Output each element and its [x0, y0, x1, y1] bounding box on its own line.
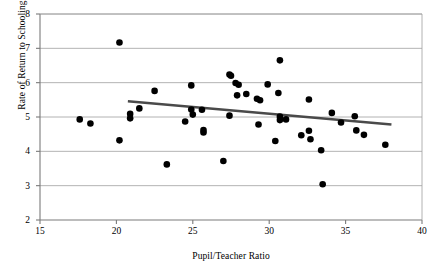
data-point [255, 121, 262, 128]
plot-area [0, 0, 437, 274]
data-point [264, 81, 271, 88]
data-point [220, 158, 227, 165]
data-point [226, 112, 233, 119]
data-point [329, 110, 336, 117]
data-point [243, 91, 250, 98]
data-point [298, 132, 305, 139]
data-point [319, 181, 326, 188]
data-point [228, 73, 235, 80]
data-point [136, 105, 143, 112]
trendline-segment [128, 101, 392, 124]
data-point [272, 138, 279, 145]
data-point [307, 136, 314, 143]
scatter-chart: Rate of Return to Schooling Pupil/Teache… [0, 0, 437, 274]
data-point [116, 137, 123, 144]
data-point [338, 119, 345, 126]
data-point [353, 127, 360, 134]
data-point [234, 92, 241, 99]
data-point [277, 117, 284, 124]
data-point [182, 118, 189, 125]
data-point [76, 116, 83, 123]
data-point [199, 106, 206, 113]
data-point [382, 142, 389, 149]
data-point [351, 113, 358, 120]
data-point [306, 127, 313, 134]
data-point [164, 161, 171, 168]
data-point [127, 115, 134, 122]
axis-ticks [36, 14, 422, 224]
data-points [76, 39, 388, 187]
data-point [116, 39, 123, 46]
data-point [318, 147, 325, 154]
data-point [277, 57, 284, 64]
data-point [190, 111, 197, 118]
gridlines [40, 14, 422, 186]
data-point [151, 88, 158, 95]
data-point [200, 129, 207, 136]
data-point [235, 81, 242, 88]
data-point [188, 82, 195, 89]
data-point [283, 116, 290, 123]
data-point [306, 96, 313, 103]
trendline [128, 101, 392, 124]
data-point [257, 97, 264, 104]
data-point [275, 90, 282, 97]
data-point [87, 120, 94, 127]
data-point [361, 132, 368, 139]
